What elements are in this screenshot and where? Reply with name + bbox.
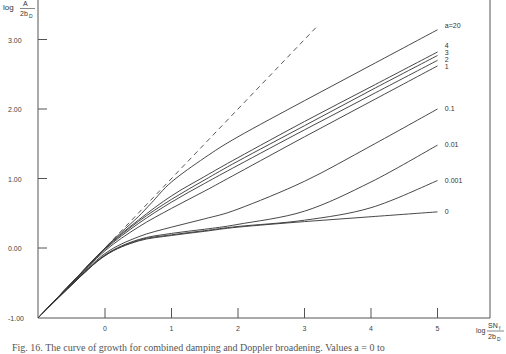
curve-label: a=20 (445, 22, 461, 29)
svg-text:SN: SN (488, 322, 498, 329)
figure-caption: Fig. 16. The curve of growth for combine… (12, 342, 502, 354)
x-tick-label: 1 (170, 325, 174, 332)
data-series (39, 26, 438, 318)
series-a-3 (39, 55, 438, 317)
series-a-1 (39, 66, 438, 318)
y-axis-title: log A 2b D (3, 0, 35, 19)
y-tick-label: 3.00 (8, 37, 22, 44)
y-tick-label: -1.00 (8, 315, 24, 322)
curve-label: 1 (445, 63, 449, 70)
x-tick-label: 5 (436, 325, 440, 332)
svg-text:log: log (476, 327, 485, 335)
series-a-20 (39, 30, 438, 318)
svg-text:log: log (3, 3, 14, 12)
svg-text:D: D (29, 13, 33, 19)
series-a-0-01 (39, 145, 438, 317)
curve-of-growth-chart: -1.000.001.002.003.00 012345 a=2043210.1… (0, 0, 506, 354)
x-tick-label: 4 (369, 325, 373, 332)
x-tick-label: 2 (236, 325, 240, 332)
series-a-0 (39, 212, 438, 318)
curve-label: 0.1 (445, 105, 455, 112)
x-tick-label: 0 (103, 325, 107, 332)
series-a-0-001 (39, 181, 438, 318)
svg-text:2b: 2b (20, 10, 28, 17)
y-tick-label: 1.00 (8, 176, 22, 183)
y-tick-label: 0.00 (8, 245, 22, 252)
series-a-2 (39, 60, 438, 317)
curve-label: 0.001 (445, 177, 463, 184)
x-axis-ticks: 012345 (103, 308, 440, 332)
y-tick-label: 2.00 (8, 106, 22, 113)
curve-labels: a=2043210.10.010.0010 (445, 22, 463, 215)
svg-text:A: A (23, 0, 28, 7)
x-axis-title: log SN f 2b D (476, 322, 504, 342)
curve-label: 4 (445, 42, 449, 49)
svg-text:2b: 2b (488, 333, 496, 340)
curve-label: 0.01 (445, 141, 459, 148)
x-tick-label: 3 (303, 325, 307, 332)
curve-label: 2 (445, 56, 449, 63)
curve-label: 0 (445, 208, 449, 215)
y-axis-ticks: -1.000.001.002.003.00 (8, 37, 47, 322)
svg-text:f: f (499, 325, 501, 331)
series-a-0-1 (39, 109, 438, 318)
